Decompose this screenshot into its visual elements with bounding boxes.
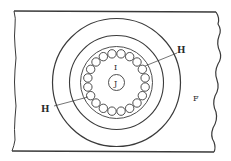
- ball: [141, 83, 149, 91]
- ball: [133, 58, 141, 66]
- ball: [133, 99, 141, 107]
- ball: [138, 65, 146, 73]
- ball: [117, 50, 125, 58]
- ball: [84, 83, 92, 91]
- ball: [92, 99, 100, 107]
- plate-left-break-edge: [12, 11, 16, 151]
- ball: [125, 104, 133, 112]
- ball: [86, 91, 94, 99]
- label-h-left: H: [41, 104, 50, 114]
- label-f: F: [193, 94, 199, 103]
- bearing-diagram: H H I J F: [0, 0, 231, 161]
- leader-line-h-left: [54, 97, 88, 106]
- label-i: I: [114, 63, 117, 72]
- ball: [84, 74, 92, 82]
- plate-top-edge: [14, 11, 216, 12]
- ball: [125, 52, 133, 60]
- ball: [99, 52, 107, 60]
- ball: [99, 104, 107, 112]
- diagram-canvas: H H I J F: [0, 0, 231, 161]
- ball: [86, 65, 94, 73]
- ball: [108, 107, 116, 115]
- ball: [108, 50, 116, 58]
- plate-right-break-edge: [212, 12, 221, 152]
- leader-line-h-right: [145, 53, 177, 66]
- plate-bottom-edge: [12, 151, 214, 152]
- label-h-right: H: [177, 45, 186, 55]
- ball: [141, 74, 149, 82]
- label-j: J: [113, 79, 117, 88]
- ball: [92, 58, 100, 66]
- ball: [117, 107, 125, 115]
- ball: [138, 91, 146, 99]
